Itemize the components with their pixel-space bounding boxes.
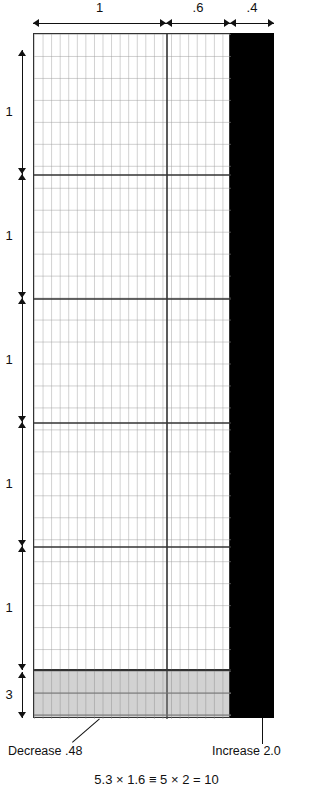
top-dimension-label-1: 1 — [33, 1, 166, 15]
increase-black-bar — [230, 33, 274, 718]
arrow-head-left — [33, 19, 39, 27]
rail-line — [22, 422, 23, 546]
decrease-callout-label: Decrease .48 — [8, 744, 82, 758]
top-dimension-label-2: .6 — [166, 1, 230, 15]
arrow-head-bottom — [18, 712, 26, 718]
figure-canvas: 1 .6 .4 1 1 1 1 — [0, 0, 313, 799]
side-dimension-arrow-1 — [18, 50, 27, 174]
rail-line — [22, 298, 23, 422]
top-dimension-arrow-1 — [33, 19, 166, 28]
grid-lines — [34, 34, 231, 671]
top-dimension-arrow-3 — [230, 19, 274, 28]
arrow-head-top — [18, 174, 26, 180]
side-dimension-label-4: 1 — [2, 477, 16, 491]
grey-strip-grid — [34, 671, 231, 719]
arrow-head-left — [230, 19, 236, 27]
side-dimension-arrow-3 — [18, 298, 27, 422]
rail-line — [22, 50, 23, 174]
side-dimension-label-3: 1 — [2, 353, 16, 367]
arrow-head-bottom — [18, 664, 26, 670]
arrow-head-top — [18, 422, 26, 428]
rail-line — [166, 23, 230, 24]
side-dimension-arrow-2 — [18, 174, 27, 298]
arrow-head-left — [166, 19, 172, 27]
decrease-leader-line — [72, 718, 100, 742]
formula-caption: 5.3 × 1.6 ≡ 5 × 2 = 10 — [0, 772, 313, 787]
increase-leader-line — [262, 718, 263, 744]
side-dimension-label-2: 1 — [2, 229, 16, 243]
increase-callout-label: Increase 2.0 — [212, 744, 281, 758]
side-dimension-arrow-5 — [18, 546, 27, 670]
arrow-head-right — [268, 19, 274, 27]
side-dimension-label-5: 1 — [2, 601, 16, 615]
arrow-head-top — [18, 50, 26, 56]
top-dimension-arrow-2 — [166, 19, 230, 28]
arrow-head-top — [18, 298, 26, 304]
rail-line — [33, 23, 166, 24]
side-dimension-arrow-6 — [18, 672, 27, 718]
rail-line — [22, 174, 23, 298]
arrow-head-top — [18, 546, 26, 552]
decrease-grey-strip — [33, 670, 230, 718]
side-dimension-arrow-4 — [18, 422, 27, 546]
main-grid — [33, 33, 230, 670]
rail-line — [22, 546, 23, 670]
side-dimension-label-6: 3 — [2, 688, 16, 702]
top-dimension-label-3: .4 — [230, 1, 274, 15]
arrow-head-top — [18, 672, 26, 678]
side-dimension-label-1: 1 — [2, 105, 16, 119]
